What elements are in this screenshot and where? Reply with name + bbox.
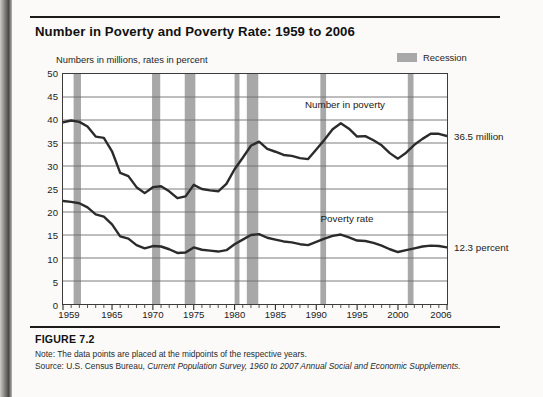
chart-svg xyxy=(63,74,447,304)
figure-title: Number in Poverty and Poverty Rate: 1959… xyxy=(35,24,355,39)
x-axis-ticks xyxy=(62,305,448,311)
figure-footer: FIGURE 7.2 Note: The data points are pla… xyxy=(35,333,505,371)
figure-bottom-rule xyxy=(30,326,500,328)
y-tick-label-45: 45 xyxy=(34,91,58,102)
series-label-number-in-poverty: Number in poverty xyxy=(305,99,385,110)
y-axis-labels: 05101520253035404550 xyxy=(30,73,58,305)
y-tick-label-35: 35 xyxy=(34,137,58,148)
end-label-poverty-rate: 12.3 percent xyxy=(454,242,508,253)
y-tick-label-25: 25 xyxy=(34,184,58,195)
figure-source: Source: U.S. Census Bureau, Current Popu… xyxy=(35,361,505,371)
figure-source-prefix: Source: U.S. Census Bureau, xyxy=(35,361,147,371)
chart-canvas xyxy=(63,74,447,304)
figure-number: FIGURE 7.2 xyxy=(35,333,505,345)
recession-swatch-icon xyxy=(397,53,417,62)
y-tick-label-40: 40 xyxy=(34,114,58,125)
end-label-number-in-poverty: 36.5 million xyxy=(454,131,504,142)
figure-top-rule xyxy=(30,16,500,18)
legend-label-recession: Recession xyxy=(423,52,467,63)
y-tick-label-30: 30 xyxy=(34,160,58,171)
figure-note: Note: The data points are placed at the … xyxy=(35,349,505,359)
y-tick-label-50: 50 xyxy=(34,68,58,79)
book-gutter-shadow xyxy=(0,0,12,397)
chart-plot-area xyxy=(62,73,448,305)
y-tick-label-10: 10 xyxy=(34,253,58,264)
axis-units-note: Numbers in millions, rates in percent xyxy=(56,54,208,65)
y-tick-label-5: 5 xyxy=(34,276,58,287)
legend: Recession xyxy=(397,52,467,63)
series-label-poverty-rate: Poverty rate xyxy=(321,213,374,224)
figure-page: Number in Poverty and Poverty Rate: 1959… xyxy=(0,0,543,397)
y-tick-label-0: 0 xyxy=(34,300,58,311)
figure-source-citation: Current Population Survey, 1960 to 2007 … xyxy=(147,361,460,371)
y-tick-label-20: 20 xyxy=(34,207,58,218)
y-tick-label-15: 15 xyxy=(34,230,58,241)
